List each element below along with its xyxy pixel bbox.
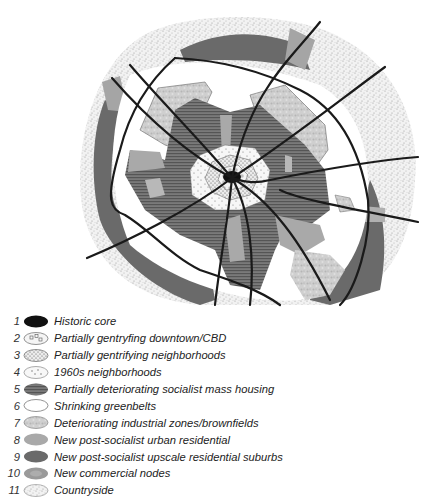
legend-label: Shrinking greenbelts (54, 400, 156, 412)
legend-number: 3 (6, 349, 20, 361)
legend-item-historic-core: 1 Historic core (6, 313, 436, 330)
legend-item-downtown: 2 Partially gentryfing downtown/CBD (6, 330, 436, 347)
legend-label: Partially deteriorating socialist mass h… (54, 383, 274, 395)
solid-black-swatch-icon (23, 315, 49, 328)
legend-item-commercial-nodes: 10 New commercial nodes (6, 465, 436, 482)
legend-number: 4 (6, 366, 20, 378)
legend-number: 9 (6, 451, 20, 463)
legend-label: 1960s neighborhoods (54, 366, 162, 378)
legend-item-mass-housing: 5 Partially deteriorating socialist mass… (6, 381, 436, 398)
white-swatch-icon (23, 399, 49, 412)
legend-number: 11 (6, 484, 20, 496)
legend-number: 8 (6, 434, 20, 446)
legend: 1 Historic core 2 Partially gentryfing d… (6, 313, 436, 499)
legend-label: New post-socialist urban residential (54, 434, 230, 446)
legend-number: 10 (6, 467, 20, 479)
legend-number: 2 (6, 332, 20, 344)
legend-label: Countryside (54, 484, 114, 496)
legend-number: 5 (6, 383, 20, 395)
sparse-dots-swatch-icon (23, 366, 49, 379)
legend-number: 7 (6, 417, 20, 429)
legend-item-upscale-suburbs: 9 New post-socialist upscale residential… (6, 448, 436, 465)
commercial-node-inner-e (285, 155, 292, 172)
legend-item-countryside: 11 Countryside (6, 482, 436, 499)
light-gray-swatch-icon (23, 433, 49, 446)
mottled-swatch-icon (23, 416, 49, 429)
legend-label: Partially gentryfing downtown/CBD (54, 332, 226, 344)
city-zone-map (0, 0, 436, 310)
legend-item-urban-residential: 8 New post-socialist urban residential (6, 431, 436, 448)
legend-item-greenbelts: 6 Shrinking greenbelts (6, 397, 436, 414)
legend-label: Deteriorating industrial zones/brownfiel… (54, 417, 259, 429)
legend-label: New post-socialist upscale residential s… (54, 451, 283, 463)
legend-item-industrial: 7 Deteriorating industrial zones/brownfi… (6, 414, 436, 431)
speckled-swatch-icon (23, 484, 49, 497)
legend-number: 1 (6, 315, 20, 327)
legend-item-gentrifying-neighborhoods: 3 Partially gentrifying neighborhoods (6, 347, 436, 364)
dense-dots-swatch-icon (23, 349, 49, 362)
legend-label: Partially gentrifying neighborhoods (54, 349, 226, 361)
legend-number: 6 (6, 400, 20, 412)
legend-item-1960s-neighborhoods: 4 1960s neighborhoods (6, 364, 436, 381)
squares-swatch-icon (23, 332, 49, 345)
legend-label: Historic core (54, 315, 116, 327)
legend-label: New commercial nodes (54, 467, 170, 479)
stripes-swatch-icon (23, 383, 49, 396)
mottled-mid-swatch-icon (23, 467, 49, 480)
dark-gray-swatch-icon (23, 450, 49, 463)
